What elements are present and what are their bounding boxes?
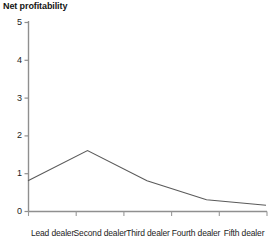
y-tick-label-3: 3 xyxy=(8,93,22,103)
y-tick-label-2: 2 xyxy=(8,130,22,140)
data-series-line xyxy=(28,151,266,206)
y-tick-label-4: 4 xyxy=(8,55,22,65)
y-tick-label-5: 5 xyxy=(8,17,22,27)
x-category-label-fifth-dealer: Fifth dealer xyxy=(196,228,278,238)
y-tick-label-1: 1 xyxy=(8,168,22,178)
y-tick-label-0: 0 xyxy=(8,206,22,216)
chart-plot-area xyxy=(0,0,278,240)
net-profitability-chart: Net profitability 5 4 3 2 1 xyxy=(0,0,278,240)
